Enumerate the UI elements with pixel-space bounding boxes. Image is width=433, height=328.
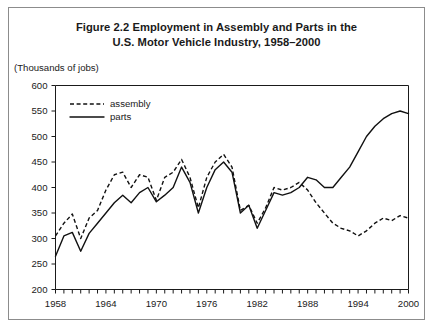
legend-label-parts: parts: [110, 111, 132, 122]
x-tick-label: 1976: [196, 298, 217, 309]
series-assembly: [56, 154, 409, 238]
x-tick-label: 1994: [347, 298, 369, 309]
x-tick-label: 2000: [398, 298, 419, 309]
axis-spine: [56, 86, 409, 290]
line-chart: 200250300350400450500550600 195819641970…: [0, 0, 433, 328]
x-tick-labels: 19581964197019761982198819942000: [45, 298, 419, 309]
y-tick-label: 250: [31, 258, 47, 269]
y-tick-label: 200: [31, 284, 47, 295]
legend: assemblyparts: [70, 98, 151, 122]
axis-frame-closure: [56, 86, 409, 290]
y-tick-label: 500: [31, 131, 47, 142]
x-tick-label: 1964: [95, 298, 117, 309]
y-tick-label: 450: [31, 156, 47, 167]
legend-label-assembly: assembly: [110, 98, 151, 109]
y-tick-label: 400: [31, 182, 47, 193]
y-tick-label: 550: [31, 105, 47, 116]
y-tick-label: 600: [31, 80, 47, 91]
y-tick-label: 300: [31, 233, 47, 244]
data-series: [56, 111, 409, 256]
x-tick-label: 1970: [146, 298, 167, 309]
x-tick-label: 1982: [247, 298, 268, 309]
y-tick-label: 350: [31, 207, 47, 218]
x-tick-label: 1988: [297, 298, 318, 309]
figure-container: Figure 2.2 Employment in Assembly and Pa…: [0, 0, 433, 328]
x-tick-label: 1958: [45, 298, 66, 309]
y-tick-labels: 200250300350400450500550600: [31, 80, 47, 295]
axis-lines: [56, 86, 409, 290]
tick-marks: [52, 86, 409, 294]
